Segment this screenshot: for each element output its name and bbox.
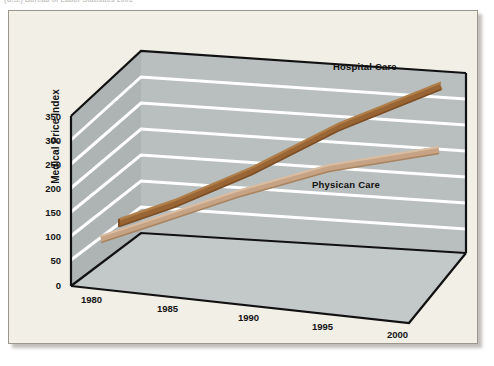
y-tick-150: 150 (27, 207, 61, 218)
y-tick-50: 50 (27, 255, 61, 266)
source-caption: (U.S.) Bureau of Labor Statistics 2001 (4, 0, 133, 3)
x-tick-2000: 2000 (387, 329, 408, 340)
series-label-hospital-care: Hospital Care (333, 61, 397, 72)
y-axis-title: Medical Price Index (50, 77, 61, 197)
chart-3d-canvas (9, 11, 477, 343)
chart-plot-area: 350 300 250 200 150 100 50 0 Medical Pri… (9, 11, 477, 343)
x-tick-1990: 1990 (238, 312, 259, 323)
x-tick-1995: 1995 (312, 321, 333, 332)
x-tick-1980: 1980 (81, 294, 102, 305)
chart-figure-frame: 350 300 250 200 150 100 50 0 Medical Pri… (8, 10, 478, 344)
x-tick-1985: 1985 (157, 303, 178, 314)
y-tick-100: 100 (27, 231, 61, 242)
series-label-physican-care: Physican Care (312, 179, 380, 190)
y-tick-0: 0 (27, 280, 61, 291)
